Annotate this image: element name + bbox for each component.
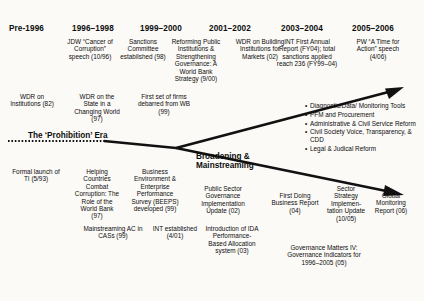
event-sanctions-committee: Sanctions Committee established (98): [119, 38, 167, 60]
list-item: •Diagnostic/Data/ Monitoring Tools: [305, 102, 423, 110]
event-formal-launch-ti: Formal launch of TI (5/93): [10, 168, 62, 183]
list-item: •Civil Society Voice, Transparency, & CD…: [305, 128, 423, 143]
header-2001-2002: 2001–2002: [209, 24, 251, 33]
event-int-established: INT established (4/01): [152, 225, 198, 240]
event-wdr-state-changing-world: WDR on the State in a Changing World (97…: [72, 93, 122, 123]
branch-label-line2: Mainstreaming: [196, 161, 254, 170]
bullet-text: PFM and Procurement: [310, 111, 374, 119]
event-sector-strategy-update: Sector Strategy Implemen-tation Update (…: [326, 185, 366, 222]
header-1996-1998: 1996–1998: [72, 24, 114, 33]
list-item: •Administrative & Civil Service Reform: [305, 120, 423, 128]
trunk-line: [104, 141, 176, 148]
branch-label-line1: Broadening &: [196, 152, 254, 161]
event-pw-time-for-action: PW “A Time for Action” speech (4/06): [350, 38, 406, 60]
upper-branch-arrowhead: [385, 87, 404, 99]
prohibition-era-label: The ‘Prohibition’ Era: [28, 131, 108, 140]
bullet-text: Civil Society Voice, Transparency, & CDD: [310, 128, 423, 143]
event-int-first-annual-report: INT First Annual Report (FY04); total sa…: [276, 38, 338, 68]
list-item: •PFM and Procurement: [305, 111, 423, 119]
thematic-bullet-list: •Diagnostic/Data/ Monitoring Tools •PFM …: [305, 102, 423, 154]
event-first-firms-debarred: First set of firms debarred from WB (99): [136, 93, 192, 115]
event-global-monitoring-report: Global Monitoring Report (06): [370, 192, 412, 214]
header-1999-2000: 1999–2000: [140, 24, 182, 33]
event-first-doing-business-report: First Doing Business Report (04): [270, 192, 320, 214]
event-jdw-speech: JDW “Cancer of Corruption” speech (10/96…: [64, 38, 116, 60]
timeline-diagram: Pre-1996 1996–1998 1999–2000 2001–2002 2…: [0, 0, 424, 301]
event-reforming-public-institutions: Reforming Public Institutions & Strength…: [168, 38, 224, 82]
broadening-mainstreaming-label: Broadening & Mainstreaming: [196, 152, 254, 171]
event-beeps-developed: Business Environment & Enterprise Perfor…: [126, 168, 184, 212]
list-item: •Legal & Judical Reform: [305, 145, 423, 153]
header-pre-1996: Pre-1996: [9, 24, 44, 33]
event-mainstreaming-ac-cas: Mainstreaming AC in CASs (99): [82, 225, 144, 240]
event-helping-countries-combat-corruption: Helping Countries Combat Corruption: The…: [74, 168, 120, 220]
bullet-text: Legal & Judical Reform: [310, 145, 376, 153]
event-public-sector-governance-update: Public Sector Governance Implementation …: [192, 185, 254, 215]
header-2003-2004: 2003–2004: [281, 24, 323, 33]
event-wdr-institutions-82: WDR on Institutions (82): [6, 93, 58, 108]
event-governance-matters-iv: Governance Matters IV: Governance Indica…: [286, 244, 362, 266]
event-ida-performance-based-allocation: Introduction of IDA Performance-Based Al…: [204, 225, 260, 255]
bullet-text: Diagnostic/Data/ Monitoring Tools: [310, 102, 405, 110]
bullet-text: Administrative & Civil Service Reform: [310, 120, 416, 128]
header-2005-2006: 2005–2006: [352, 24, 394, 33]
